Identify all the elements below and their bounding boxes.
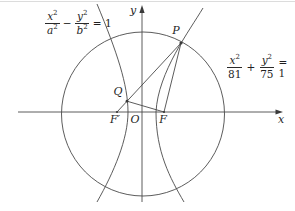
ellipse-equation: x2 81 + y2 75 = 1 — [226, 55, 295, 80]
ellipse-curve — [62, 32, 225, 196]
denominator: 75 — [258, 68, 275, 80]
point-dot-P — [179, 41, 182, 44]
x-axis-label: x — [278, 114, 284, 125]
denominator: a2 — [45, 24, 60, 36]
y-axis-arrow-icon — [139, 5, 144, 13]
denominator: 81 — [226, 68, 243, 80]
segment-Q-F — [127, 101, 164, 112]
equals-one: = 1 — [93, 18, 112, 29]
fraction-x2-a2: x2 a2 — [45, 11, 60, 36]
fraction-y2-75: y2 75 — [258, 55, 275, 80]
plus-operator: + — [246, 62, 255, 73]
equals-one: = 1 — [279, 57, 295, 78]
fraction-y2-b2: y2 b2 — [75, 11, 90, 36]
point-label-Fprime: F′ — [110, 114, 120, 125]
hyperbola-equation: x2 a2 − y2 b2 = 1 — [45, 11, 112, 36]
minus-operator: − — [63, 18, 72, 29]
denominator: b2 — [75, 24, 90, 36]
segment-P-F — [164, 43, 181, 112]
point-label-F: F — [159, 114, 167, 125]
fraction-x2-81: x2 81 — [226, 55, 243, 80]
hyperbola-right-branch — [156, 8, 203, 202]
numerator: x2 — [227, 55, 241, 68]
point-label-P: P — [172, 25, 179, 36]
numerator: y2 — [260, 55, 274, 68]
point-dot-Q — [126, 100, 129, 103]
point-label-O: O — [130, 114, 139, 125]
math-figure: x y P Q F′ O F x2 a2 − y2 b2 = 1 x2 81 +… — [0, 0, 295, 211]
point-label-Q: Q — [113, 86, 122, 97]
y-axis-label: y — [130, 5, 136, 16]
